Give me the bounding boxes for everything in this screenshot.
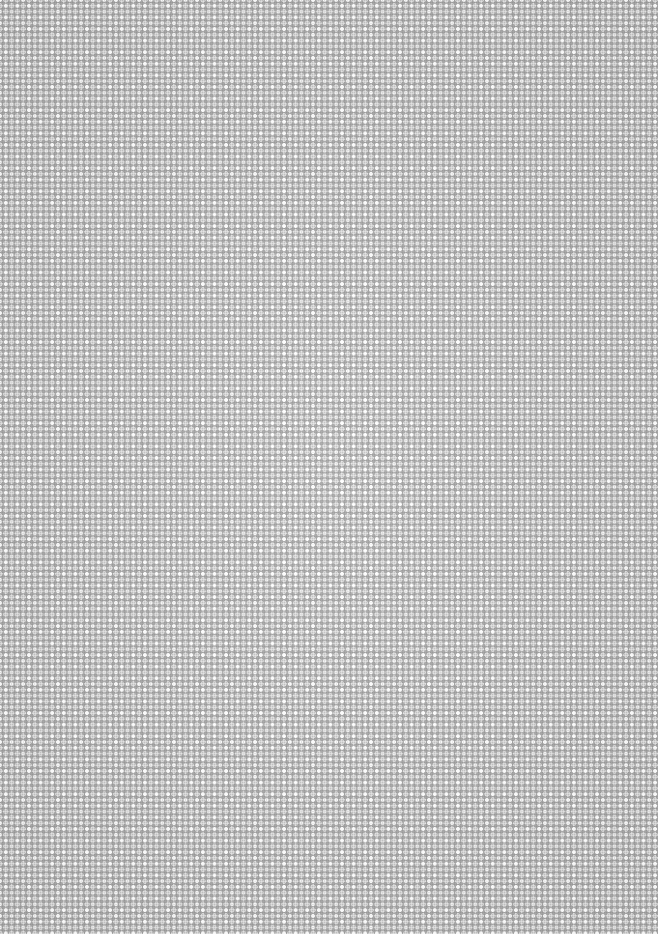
texture-background [0, 0, 658, 934]
